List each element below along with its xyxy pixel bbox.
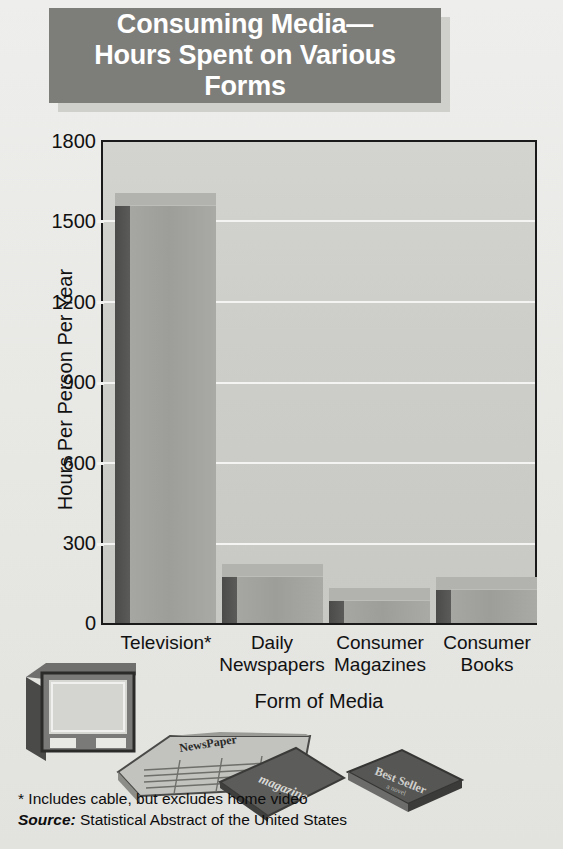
y-tick-label-600: 600: [10, 453, 96, 473]
y-tick-label-0: 0: [10, 613, 96, 633]
bar-front-face: [130, 205, 216, 623]
x-axis-title: Form of Media: [101, 690, 537, 713]
y-tick-label-1500: 1500: [10, 211, 96, 231]
bar-side-face: [222, 577, 237, 623]
y-tickmark-1500: [97, 220, 104, 223]
bar-daily-newspapers[interactable]: [237, 577, 323, 623]
footnote-asterisk: * Includes cable, but excludes home vide…: [18, 789, 347, 810]
x-tick-label-line: Books: [461, 654, 514, 675]
y-tickmark-600: [97, 462, 104, 465]
footnote-source: Source: Statistical Abstract of the Unit…: [18, 810, 347, 831]
bar-front-face: [237, 576, 323, 623]
title-banner: Consuming Media— Hours Spent on Various …: [49, 8, 441, 103]
book-illustration: Best Seller a novel: [340, 744, 480, 820]
bar-side-face: [436, 590, 451, 623]
source-text: Statistical Abstract of the United State…: [76, 811, 347, 828]
bar-front-face: [344, 600, 430, 623]
x-tick-label-line: Magazines: [334, 654, 426, 675]
y-tickmark-300: [97, 543, 104, 546]
page-title: Consuming Media— Hours Spent on Various …: [49, 9, 441, 103]
bar-side-face: [329, 601, 344, 623]
bar-side-face: [115, 206, 130, 623]
x-tick-label-line: Consumer: [443, 632, 531, 653]
x-tick-label-line: Newspapers: [219, 654, 325, 675]
bar-consumer-books[interactable]: [451, 590, 537, 623]
y-tickmark-1200: [97, 301, 104, 304]
x-tick-label-line: Daily: [251, 632, 293, 653]
y-tick-label-1800: 1800: [10, 131, 96, 151]
bar-front-face: [451, 589, 537, 623]
y-tick-label-300: 300: [10, 533, 96, 553]
bar-television[interactable]: [130, 206, 216, 623]
y-tick-label-900: 900: [10, 372, 96, 392]
y-tickmark-900: [97, 382, 104, 385]
bar-consumer-magazines[interactable]: [344, 601, 430, 623]
title-line-1: Consuming Media—: [117, 9, 373, 39]
footnotes: * Includes cable, but excludes home vide…: [18, 789, 347, 831]
chart-page: Consuming Media— Hours Spent on Various …: [0, 0, 563, 849]
x-tick-label-line: Consumer: [336, 632, 424, 653]
x-tick-label-consumer-books: Consumer Books: [417, 632, 557, 676]
plot-area: [101, 140, 537, 625]
y-tick-label-1200: 1200: [10, 292, 96, 312]
x-tick-label-line: Television*: [121, 632, 212, 653]
source-label: Source:: [18, 811, 76, 828]
title-line-2: Hours Spent on Various Forms: [94, 40, 396, 101]
